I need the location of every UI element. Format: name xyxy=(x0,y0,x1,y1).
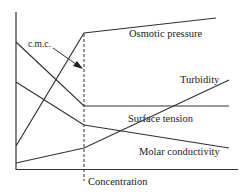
cmc-label: c.m.c. xyxy=(28,39,51,49)
micelle-property-diagram: c.m.c. Osmotic pressure Turbidity Surfac… xyxy=(0,0,248,195)
molar-conductivity-label: Molar conductivity xyxy=(139,146,221,157)
osmotic-pressure-label: Osmotic pressure xyxy=(129,28,203,39)
turbidity-label: Turbidity xyxy=(180,74,220,85)
x-axis-label: Concentration xyxy=(88,176,148,187)
surface-tension-label: Surface tension xyxy=(128,113,194,124)
cmc-arrowhead-icon xyxy=(73,61,83,69)
